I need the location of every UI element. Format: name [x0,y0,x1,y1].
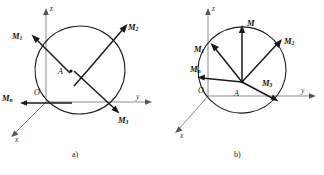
center-label-b: A [233,89,239,98]
x-axis-label-a: x [14,135,19,144]
vector-M3-a [89,85,120,114]
vector-M-arrowhead-b [239,25,245,33]
caption-b: b) [234,150,241,159]
vector-M1-label-a: M1 [11,31,23,41]
z-axis-label-b: z [211,4,215,13]
diagram-panel-a: z y x A O M1 M2 M3 Mn [0,0,162,175]
y-axis-arrowhead-b [309,93,316,99]
vector-Mn-label-b: Mn [189,64,201,74]
z-axis-arrowhead [43,8,49,15]
x-axis-line-b [178,96,208,130]
vector-M2-label-a: M2 [127,22,139,32]
vector-M1-b [211,43,243,82]
vector-M2-label-b: M2 [283,36,295,46]
z-axis-label-a: z [49,4,53,13]
vector-M1-label-b: M1 [193,44,205,54]
x-axis-label-b: x [179,131,184,140]
x-axis-line [14,102,46,134]
vector-M1-a [32,35,60,63]
y-axis-arrowhead [145,99,152,105]
vector-M1-arrowhead-b [211,43,220,52]
vector-M-label-b: M [246,18,255,28]
vector-Mn-arrowhead-a [20,100,27,106]
vector-Mn-a [20,100,56,106]
origin-label-b: O [198,86,204,95]
z-axis-arrowhead-b [205,8,211,15]
origin-label-a: O [34,88,40,97]
vector-M2-shaft-b [242,43,278,82]
figure-container: z y x A O M1 M2 M3 Mn [0,0,324,175]
diagram-panel-b: z y x O A M M1 M2 M3 [162,0,324,175]
vector-M2-b [242,39,282,82]
vector-Mn-label-a: Mn [1,93,13,103]
vector-M3-label-b: M3 [261,78,273,88]
vector-M3-b [242,82,279,102]
vector-M3-shaft-a [89,85,116,110]
vector-M2-a [88,24,128,70]
y-axis-label-b: y [300,86,305,95]
vector-M3-label-a: M3 [117,115,129,125]
caption-a: a) [72,150,78,159]
center-label-a: A [57,67,63,76]
body-outline-a [29,20,130,120]
y-axis-label-a: y [135,92,140,101]
application-point-marker-b [241,81,244,84]
vector-M1-shaft-a [35,38,59,62]
vector-Mn-b [198,75,243,83]
vector-M-resultant-b [239,25,245,82]
vector-M1-shaft-b [214,47,242,82]
